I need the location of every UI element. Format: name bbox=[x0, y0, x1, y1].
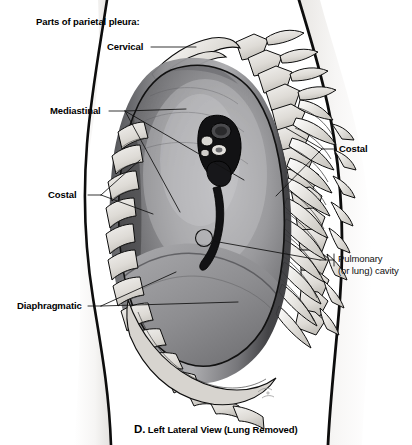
label-diaphragmatic: Diaphragmatic bbox=[17, 300, 82, 311]
figure-caption: D. Left Lateral View (Lung Removed) bbox=[134, 423, 298, 435]
figure-title: Parts of parietal pleura: bbox=[36, 16, 140, 27]
label-cervical: Cervical bbox=[107, 41, 143, 52]
label-costal-left: Costal bbox=[48, 189, 76, 200]
anatomy-illustration bbox=[0, 0, 412, 445]
figure-canvas: Parts of parietal pleura: Cervical Media… bbox=[0, 0, 412, 445]
caption-text: Left Lateral View (Lung Removed) bbox=[148, 424, 298, 435]
label-mediastinal: Mediastinal bbox=[50, 105, 101, 116]
caption-letter: D. bbox=[134, 423, 145, 435]
label-pulmonary-cavity-line2: (or lung) cavity bbox=[338, 265, 399, 277]
label-pulmonary-cavity-line1: Pulmonary bbox=[338, 253, 383, 265]
label-costal-right: Costal bbox=[339, 143, 367, 154]
